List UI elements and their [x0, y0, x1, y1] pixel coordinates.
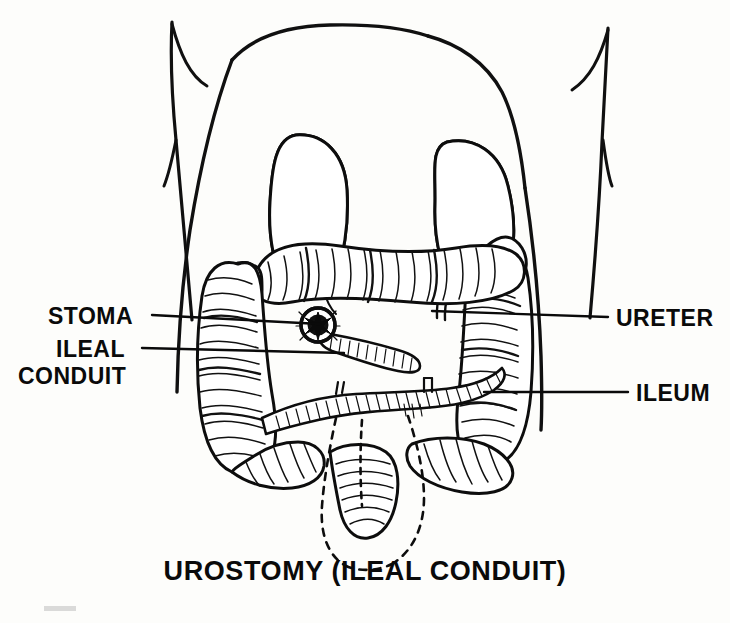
label-ileal-conduit-line2: CONDUIT: [18, 363, 126, 389]
label-stoma: STOMA: [48, 303, 133, 329]
label-ileum: ILEUM: [636, 380, 710, 406]
figure-caption: UROSTOMY (ILEAL CONDUIT): [164, 556, 567, 586]
scan-artifact: [44, 606, 76, 611]
label-ileal-conduit-line1: ILEAL: [56, 336, 125, 362]
urostomy-diagram: STOMA ILEAL CONDUIT URETER ILEUM UROSTOM…: [0, 0, 730, 623]
figure-root: STOMA ILEAL CONDUIT URETER ILEUM UROSTOM…: [0, 0, 730, 623]
label-ureter: URETER: [616, 305, 714, 331]
